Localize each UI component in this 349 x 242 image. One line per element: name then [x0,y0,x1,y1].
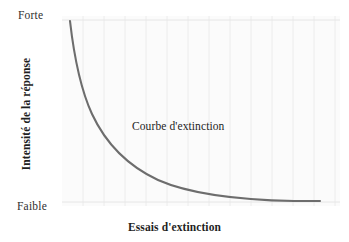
y-axis-tick-low: Faible [17,200,47,213]
curve-annotation-label: Courbe d'extinction [132,120,224,132]
extinction-curve-figure: Courbe d'extinction Forte Faible Intensi… [0,0,349,242]
extinction-curve [62,16,340,206]
plot-area [62,16,340,206]
x-axis-title: Essais d'extinction [0,221,349,233]
y-axis-title: Intensité de la réponse [20,44,32,184]
y-axis-tick-high: Forte [18,9,43,22]
